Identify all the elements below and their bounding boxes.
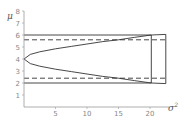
x-axis-label: σ2 xyxy=(168,101,178,113)
plot-area xyxy=(24,34,166,83)
y-tick-label: 1 xyxy=(16,92,20,100)
series-lower-curve xyxy=(24,59,151,83)
chart: 510152012345678 μ σ2 xyxy=(0,0,189,128)
y-tick-label: 7 xyxy=(16,20,20,28)
y-axis-label: μ xyxy=(7,11,13,21)
y-tick-label: 8 xyxy=(16,8,20,16)
y-tick-label: 3 xyxy=(16,68,20,76)
series-upper-curve xyxy=(24,35,151,59)
y-tick-label: 5 xyxy=(16,44,20,52)
y-tick-label: 2 xyxy=(16,80,20,88)
series-outer-box xyxy=(151,34,166,83)
x-tick-label: 5 xyxy=(53,110,57,118)
x-tick-label: 15 xyxy=(114,110,123,118)
axes: 510152012345678 xyxy=(16,8,169,119)
x-tick-label: 10 xyxy=(83,110,92,118)
y-tick-label: 6 xyxy=(16,32,21,40)
y-tick-label: 4 xyxy=(16,56,21,64)
x-tick-label: 20 xyxy=(146,110,155,118)
